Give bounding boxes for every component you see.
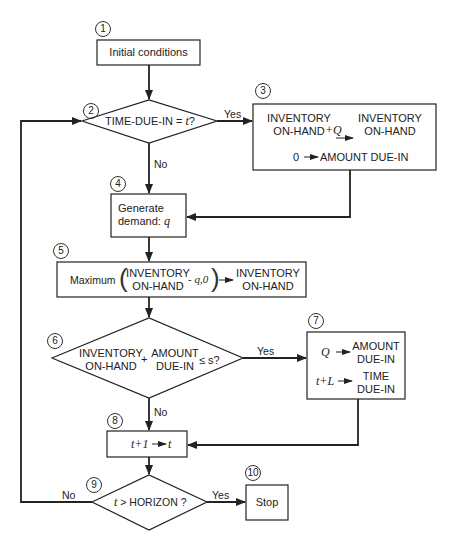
node-6-operand-b: AMOUNT DUE-IN (150, 347, 200, 373)
node-7-r1-right: AMOUNT DUE-IN (350, 340, 402, 366)
node-3-op: +Q (325, 124, 342, 137)
node-7-r1-right2: DUE-IN (350, 353, 402, 366)
node-3-line1-left: INVENTORY (264, 112, 334, 125)
node-5-right: INVENTORY ON-HAND (234, 267, 302, 293)
edge-label-d9-yes: Yes (212, 489, 229, 502)
node-2-text-pre: TIME-DUE-IN = (105, 115, 185, 127)
node-3-line3-right: AMOUNT DUE-IN (320, 151, 408, 164)
edge-label-d2-no: No (154, 158, 167, 171)
node-5-prefix: Maximum (70, 274, 116, 287)
node-9-text: > HORIZON ? (117, 496, 186, 508)
node-6-a2: ON-HAND (78, 360, 144, 373)
node-9-label: t > HORIZON ? (114, 496, 186, 509)
node-10-label: Stop (246, 496, 288, 509)
node-2-text-post: ? (189, 115, 195, 127)
node-8-right: t (168, 438, 171, 451)
node-8-left: t+1 (131, 438, 148, 451)
edge-label-d2-yes: Yes (224, 108, 241, 121)
node-5-inner: INVENTORY ON-HAND (124, 267, 192, 293)
node-number-6: 6 (47, 333, 63, 349)
edge-label-d6-no: No (154, 406, 167, 419)
node-4-line1: Generate (118, 202, 164, 215)
node-4-line2-pre: demand: (118, 215, 161, 227)
node-6-plus: + (141, 353, 147, 366)
node-5-right2: ON-HAND (234, 280, 302, 293)
node-number-4: 4 (110, 176, 126, 192)
edge-label-d9-no: No (62, 489, 75, 502)
node-4-line2: demand: q (118, 215, 170, 228)
node-6-cond: ≤ s? (199, 354, 220, 367)
node-7-r1-right1: AMOUNT (350, 340, 402, 353)
node-3-inv-left: INVENTORY ON-HAND (264, 112, 334, 138)
node-2-label: TIME-DUE-IN = t? (100, 115, 200, 128)
node-7-r2-right1: TIME (350, 370, 402, 383)
node-7-r2-left: t+L (316, 375, 334, 388)
node-number-1: 1 (95, 21, 111, 37)
node-6-b1: AMOUNT (150, 347, 200, 360)
node-1-label: Initial conditions (97, 46, 200, 59)
node-5-inner2: ON-HAND (124, 280, 192, 293)
node-7-r2-right: TIME DUE-IN (350, 370, 402, 396)
edge-label-d6-yes: Yes (257, 345, 274, 358)
node-number-9: 9 (86, 477, 102, 493)
node-number-7: 7 (308, 313, 324, 329)
node-7-r1-left: Q (321, 346, 330, 359)
flowchart-canvas (0, 0, 455, 546)
node-3-line3-left: 0 (293, 151, 299, 164)
node-number-5: 5 (53, 243, 69, 259)
node-4-line2-var: q (164, 214, 170, 228)
node-number-10: 10 (245, 465, 261, 481)
node-number-2: 2 (83, 103, 99, 119)
node-5-paren-close: ) (211, 263, 220, 293)
node-3-line1-right: INVENTORY (355, 112, 425, 125)
node-5-inner1: INVENTORY (124, 267, 192, 280)
node-6-b2: DUE-IN (150, 360, 200, 373)
node-3-inv-right: INVENTORY ON-HAND (355, 112, 425, 138)
node-6-operand-a: INVENTORY ON-HAND (78, 347, 144, 373)
node-3-line2-left: ON-HAND (264, 125, 334, 138)
node-7-r2-right2: DUE-IN (350, 383, 402, 396)
node-3-line2-right: ON-HAND (355, 125, 425, 138)
node-5-inner-op: - q,0 (188, 273, 208, 286)
node-number-8: 8 (107, 413, 123, 429)
node-5-right1: INVENTORY (234, 267, 302, 280)
node-6-a1: INVENTORY (78, 347, 144, 360)
node-number-3: 3 (255, 83, 271, 99)
